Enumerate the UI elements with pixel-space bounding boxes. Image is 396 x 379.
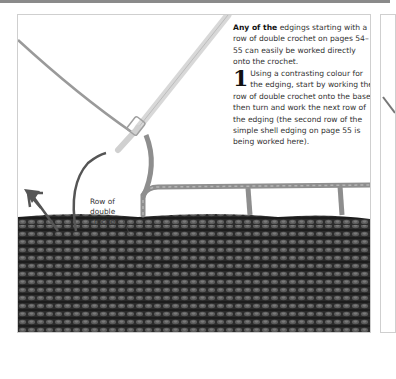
row-label-line-1: Row of — [90, 197, 140, 207]
top-rule — [0, 0, 390, 3]
step-1: 1 Using a contrasting colour for the edg… — [233, 68, 371, 148]
step-text: Using a contrasting colour for the edgin… — [233, 69, 371, 146]
row-label-line-3: crochet — [90, 217, 140, 227]
adjacent-photo-edge — [381, 15, 395, 332]
row-label: Row of double crochet — [90, 197, 140, 227]
row-label-line-2: double — [90, 207, 140, 217]
instruction-panel: Any of the edgings starting with a row o… — [17, 14, 371, 333]
intro-lead: Any of the — [233, 23, 277, 32]
adjacent-panel — [380, 14, 396, 333]
step-number: 1 — [233, 68, 248, 88]
intro-text: Any of the edgings starting with a row o… — [233, 22, 371, 68]
